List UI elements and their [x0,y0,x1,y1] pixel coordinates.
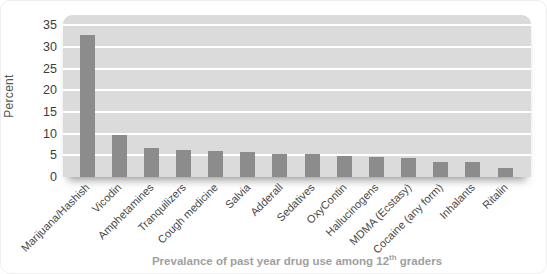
caption-text-before: Prevalance of past year drug use among 1… [152,255,389,267]
y-tick-label-30: 30 [23,40,57,54]
gridline-25 [63,68,531,70]
drug-use-bar-chart-figure: Percent 05101520253035 Marijuana/Hashish… [0,0,547,274]
gridline-5 [63,154,531,156]
y-tick-label-15: 15 [23,105,57,119]
caption-text-after: graders [397,255,442,267]
gridline-15 [63,111,531,113]
bar-oxycontin [337,156,352,177]
y-tick-label-35: 35 [23,18,57,32]
y-tick-label-10: 10 [23,127,57,141]
x-label-salvia: Salvia [223,181,253,211]
bar-inhalants [465,162,480,177]
bar-hallucinogens [369,157,384,177]
x-label-cough-medicine: Cough medicine [155,181,220,246]
y-tick-label-20: 20 [23,83,57,97]
bar-sedatives [305,154,320,177]
bar-vicodin [112,135,127,177]
caption-superscript: th [389,253,397,262]
bar-mdma-ecstasy [401,158,416,177]
y-tick-label-0: 0 [23,170,57,184]
bar-adderall [272,154,287,177]
x-label-marijuana-hashish: Marijuana/Hashish [19,181,92,254]
bar-cocaine-any-form [433,162,448,177]
gridline-35 [63,24,531,26]
gridline-20 [63,89,531,91]
bar-tranquilizers [176,150,191,177]
bar-salvia [240,152,255,177]
y-tick-label-25: 25 [23,62,57,76]
bar-ritalin [498,168,513,177]
gridline-10 [63,133,531,135]
x-label-ritalin: Ritalin [479,181,509,211]
bar-marijuana-hashish [80,35,95,177]
chart-caption: Prevalance of past year drug use among 1… [63,253,531,267]
y-axis-title: Percent [2,61,16,131]
plot-area [63,15,531,177]
y-tick-label-5: 5 [23,148,57,162]
bar-cough-medicine [208,151,223,177]
bar-amphetamines [144,148,159,177]
gridline-30 [63,46,531,48]
